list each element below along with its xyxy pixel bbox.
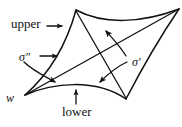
sigma-prime-lower-arrow bbox=[100, 62, 127, 82]
interior-diagonals bbox=[25, 9, 179, 98]
sigma-double-prime-curved-arrow bbox=[24, 62, 55, 82]
label-lower: lower bbox=[62, 105, 92, 118]
label-sigma-prime: σ′ bbox=[132, 56, 141, 68]
annotation-arrows bbox=[24, 26, 127, 104]
upper-right-boundary-arc bbox=[76, 9, 179, 20]
lower-right-boundary-arc bbox=[126, 9, 179, 99]
diagonal-w-to-right-cusp bbox=[25, 9, 179, 95]
label-upper: upper bbox=[11, 17, 41, 30]
label-w: w bbox=[6, 92, 14, 104]
figure-container: upper lower σ″ σ′ w bbox=[0, 0, 182, 127]
label-sigma-double-prime: σ″ bbox=[19, 51, 30, 63]
